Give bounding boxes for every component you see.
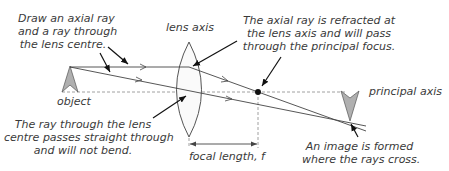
lens-axis-label: lens axis [166,21,214,34]
callout-arrow-centre [100,53,110,72]
annotation-line: where the rays cross. [302,153,417,166]
annotation-line: and will not bend. [4,144,162,157]
principal-focus-dot [255,89,261,95]
callout-arrow-refraction [193,41,237,66]
annotation-line: An image is formed [302,140,417,153]
callout-arrow-image [351,124,358,137]
image-arrow-icon [341,91,359,121]
annotation-line: Draw an axial ray [18,12,108,25]
annotation-line: the lens centre. [18,38,108,51]
image-formed-annotation: An image is formed where the rays cross. [302,140,417,166]
principal-axis-label: principal axis [369,85,442,98]
annotation-line: The axial ray is refracted at [233,14,405,27]
object-arrow-icon [62,66,78,92]
callout-arrow-focus [262,57,281,86]
annotation-line: through the principal focus. [233,40,405,53]
annotation-line: and a ray through [18,25,108,38]
annotation-line: centre passes straight through [4,131,162,144]
annotation-line: The ray through the lens [4,118,162,131]
centre-ray-annotation: The ray through the lens centre passes s… [4,118,162,157]
object-label: object [57,95,91,108]
converging-lens-icon [177,42,202,137]
draw-rays-annotation: Draw an axial ray and a ray through the … [18,12,108,51]
focal-length-label: focal length, f [189,150,265,163]
annotation-line: the lens axis and will pass [233,27,405,40]
callout-arrow-axial [108,47,128,64]
refraction-annotation: The axial ray is refracted at the lens a… [233,14,405,53]
lens-ray-diagram: Draw an axial ray and a ray through the … [0,0,449,171]
